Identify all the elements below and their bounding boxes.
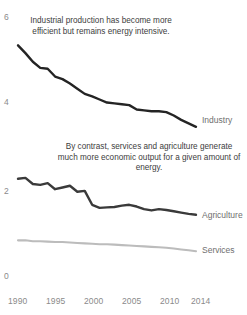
y-axis-tick-0: 0	[4, 271, 9, 281]
x-axis-tick-1990: 1990	[8, 296, 27, 306]
y-axis-tick-4: 4	[4, 97, 9, 107]
series-line-industry	[18, 45, 196, 126]
y-axis-tick-6: 6	[4, 12, 9, 22]
x-axis-tick-2014: 2014	[191, 296, 210, 306]
series-label-services: Services	[202, 245, 235, 255]
series-label-agriculture: Agriculture	[202, 210, 243, 220]
annotation-services-agriculture-note: By contrast, services and agriculture ge…	[56, 142, 242, 174]
energy-intensity-chart: 6 4 2 0 1990 1995 2000 2005 2010 2014 In…	[0, 0, 247, 315]
x-axis-tick-2010: 2010	[160, 296, 179, 306]
x-axis-tick-2000: 2000	[84, 296, 103, 306]
y-axis-tick-2: 2	[4, 186, 9, 196]
x-axis-tick-2005: 2005	[122, 296, 141, 306]
annotation-industry-note: Industrial production has become more ef…	[30, 16, 172, 37]
x-axis-tick-1995: 1995	[46, 296, 65, 306]
series-line-agriculture	[18, 178, 196, 215]
series-line-services	[18, 240, 196, 251]
series-label-industry: Industry	[202, 115, 232, 125]
